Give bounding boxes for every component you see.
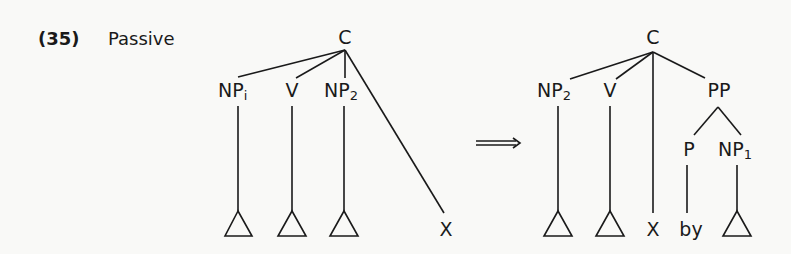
left-node-x: X [439, 218, 452, 240]
example-title: Passive [108, 28, 175, 49]
right-node-p: P [683, 138, 694, 160]
right-node-pp: PP [708, 79, 731, 101]
right-edge-pp-np1 [718, 107, 741, 135]
right-node-x: X [646, 218, 659, 240]
example-number: (35) [38, 28, 80, 49]
left-edge-c-v [296, 50, 345, 78]
left-edge-c-x [345, 50, 444, 213]
right-edge-c-np2 [570, 52, 653, 79]
right-edge-c-v [616, 52, 653, 79]
right-v-triangle-icon [596, 211, 624, 236]
right-root-label: C [646, 26, 659, 48]
right-edge-c-pp [653, 52, 705, 78]
left-np-i-triangle-icon [225, 211, 252, 236]
left-root-label: C [338, 26, 351, 48]
left-node-v: V [286, 79, 299, 101]
left-np2-triangle-icon [330, 211, 358, 236]
right-node-v: V [604, 79, 617, 101]
left-tree: C NPi V NP2 X [218, 26, 453, 240]
left-v-triangle-icon [278, 211, 306, 236]
right-node-np1: NP1 [718, 138, 752, 162]
passive-transformation-diagram: (35) Passive C NPi V NP2 X C [0, 0, 791, 254]
left-edge-c-np1 [238, 50, 345, 77]
right-tree: C NP2 V X PP P by NP1 [537, 26, 752, 240]
left-node-np-i: NPi [218, 79, 247, 103]
right-leaf-by: by [679, 218, 702, 240]
left-node-np2: NP2 [324, 79, 358, 103]
right-edge-pp-p [694, 107, 718, 135]
transformation-arrow-icon [476, 138, 520, 148]
right-np1-triangle-icon [723, 211, 751, 236]
right-node-np2: NP2 [537, 79, 571, 103]
right-np2-triangle-icon [544, 211, 572, 236]
